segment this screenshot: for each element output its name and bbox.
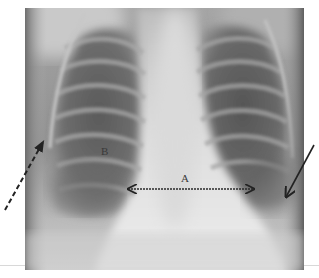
xray-rendering: [25, 8, 304, 270]
label-a: A: [181, 173, 189, 184]
chest-xray-image: [25, 8, 304, 270]
label-b: B: [101, 146, 108, 157]
